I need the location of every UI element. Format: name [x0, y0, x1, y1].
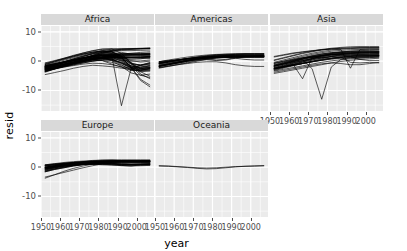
x-axis-tick-mark — [155, 218, 156, 221]
x-axis-tick-mark — [98, 218, 99, 221]
x-axis-tick-mark — [347, 112, 348, 115]
panel-canvas — [270, 26, 383, 111]
y-axis-tick-label: -10 — [12, 85, 36, 95]
x-axis-tick-mark — [289, 112, 290, 115]
x-axis-tick-mark — [232, 218, 233, 221]
y-axis-tick-mark — [38, 31, 41, 32]
panel-canvas — [155, 132, 268, 217]
facet-panel-americas — [155, 26, 268, 111]
x-axis-tick-mark — [79, 218, 80, 221]
x-axis-tick-mark — [118, 218, 119, 221]
y-axis-title: resid — [2, 0, 18, 251]
facet-strip-oceania: Oceania — [155, 120, 268, 131]
x-axis-tick-mark — [193, 218, 194, 221]
x-axis-tick-mark — [366, 112, 367, 115]
faceted-line-chart: resid year Africa100-10AmericasAsia19501… — [0, 0, 407, 251]
facet-strip-label: Asia — [317, 15, 336, 24]
facet-strip-label: Africa — [85, 15, 111, 24]
facet-strip-americas: Americas — [155, 14, 268, 25]
x-axis-tick-label: 1970 — [69, 223, 89, 232]
panel-canvas — [41, 132, 154, 217]
x-axis-tick-label: 1950 — [31, 223, 51, 232]
x-axis-tick-label: 1980 — [88, 223, 108, 232]
x-axis-tick-label: 1980 — [202, 223, 222, 232]
facet-panel-asia — [270, 26, 383, 111]
facet-strip-label: Americas — [191, 15, 233, 24]
y-axis-tick-label: 10 — [12, 133, 36, 143]
x-axis-tick-mark — [174, 218, 175, 221]
x-axis-title-text: year — [164, 237, 189, 250]
x-axis-tick-label: 2000 — [241, 223, 261, 232]
x-axis-tick-mark — [137, 218, 138, 221]
panel-canvas — [155, 26, 268, 111]
facet-strip-asia: Asia — [270, 14, 383, 25]
facet-strip-africa: Africa — [41, 14, 154, 25]
facet-strip-europe: Europe — [41, 120, 154, 131]
y-axis-tick-label: 0 — [12, 162, 36, 172]
x-axis-tick-mark — [60, 218, 61, 221]
major-gridlines — [155, 132, 268, 217]
y-axis-tick-label: -10 — [12, 191, 36, 201]
x-axis-tick-mark — [251, 218, 252, 221]
y-axis-tick-label: 10 — [12, 27, 36, 37]
x-axis-tick-label: 1960 — [279, 117, 299, 126]
x-axis-tick-label: 1990 — [221, 223, 241, 232]
x-axis-tick-label: 1980 — [317, 117, 337, 126]
facet-panel-europe — [41, 132, 154, 217]
x-axis-tick-label: 1990 — [107, 223, 127, 232]
x-axis-tick-label: 1990 — [336, 117, 356, 126]
x-axis-tick-label: 1970 — [298, 117, 318, 126]
x-axis-tick-mark — [308, 112, 309, 115]
x-axis-tick-mark — [327, 112, 328, 115]
major-gridlines — [41, 132, 154, 217]
x-axis-tick-label: 1950 — [145, 223, 165, 232]
x-axis-title: year — [0, 237, 407, 250]
facet-strip-label: Europe — [82, 121, 114, 130]
x-axis-tick-label: 1960 — [50, 223, 70, 232]
y-axis-tick-mark — [38, 90, 41, 91]
x-axis-tick-label: 2000 — [356, 117, 376, 126]
x-axis-tick-row: 195019601970198019902000 — [270, 117, 383, 129]
y-axis-tick-mark — [38, 137, 41, 138]
y-axis-tick-mark — [38, 61, 41, 62]
x-axis-tick-label: 1970 — [183, 223, 203, 232]
x-axis-tick-row: 195019601970198019902000 — [155, 223, 268, 235]
facet-panel-oceania — [155, 132, 268, 217]
facet-panel-africa — [41, 26, 154, 111]
y-axis-tick-mark — [38, 196, 41, 197]
panel-canvas — [41, 26, 154, 111]
major-gridlines — [155, 26, 268, 111]
y-axis-tick-mark — [38, 167, 41, 168]
facet-strip-label: Oceania — [193, 121, 230, 130]
x-axis-tick-mark — [41, 218, 42, 221]
y-axis-tick-label: 0 — [12, 56, 36, 66]
x-axis-tick-row: 195019601970198019902000 — [41, 223, 154, 235]
x-axis-tick-label: 1960 — [164, 223, 184, 232]
x-axis-tick-mark — [270, 112, 271, 115]
x-axis-tick-mark — [212, 218, 213, 221]
